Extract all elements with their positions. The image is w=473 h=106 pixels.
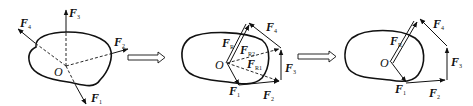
- label-f1: F1: [90, 91, 102, 105]
- force-arrow-f1: [76, 86, 86, 104]
- label-f1: F1: [228, 84, 240, 98]
- label-f2: F2: [262, 88, 274, 102]
- label-f2: F2: [428, 86, 440, 100]
- label-point-o: O: [215, 58, 224, 72]
- label-fr: FR: [221, 36, 234, 50]
- force-arrow-f4: [18, 29, 35, 43]
- transition-arrow-2: [298, 51, 336, 62]
- label-f4: F4: [432, 17, 444, 31]
- panel-force-polygon-resultant: O FR F4 F3 F1 F2: [345, 17, 462, 100]
- label-f3: F3: [450, 55, 462, 69]
- label-f3: F3: [284, 61, 296, 75]
- label-fr2: FR2: [239, 43, 255, 57]
- label-f4: F4: [19, 16, 31, 30]
- label-f1: F1: [394, 82, 406, 96]
- label-fr: FR: [389, 34, 402, 48]
- transition-arrow-1: [128, 52, 165, 63]
- panel-force-polygon-intermediates: O FR FR2 FR1 F4 F3 F1 F2: [182, 20, 296, 102]
- rigid-body-outline: [29, 32, 111, 86]
- label-f4: F4: [265, 20, 277, 34]
- label-point-o: O: [380, 56, 389, 70]
- panel-original-forces: F3 F4 F2 F1 O: [18, 6, 128, 105]
- force-reduction-diagram: F3 F4 F2 F1 O O FR FR2 FR1 F4 F3 F1 F2: [0, 0, 473, 106]
- label-f2: F2: [113, 35, 125, 49]
- label-f3: F3: [68, 6, 80, 20]
- label-point-o: O: [54, 65, 63, 79]
- label-fr1: FR1: [246, 57, 262, 71]
- force-arrow-f2: [110, 49, 128, 54]
